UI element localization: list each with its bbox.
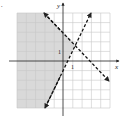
x-axis-label: x (114, 63, 119, 71)
x-tick-label: 1 (71, 64, 74, 70)
y-axis-label: y (56, 2, 61, 10)
problem-label: . (1, 2, 3, 8)
inequality-graph: x y 1 1 . (0, 0, 121, 119)
y-tick-label: 1 (58, 49, 61, 55)
shaded-region (17, 13, 75, 108)
